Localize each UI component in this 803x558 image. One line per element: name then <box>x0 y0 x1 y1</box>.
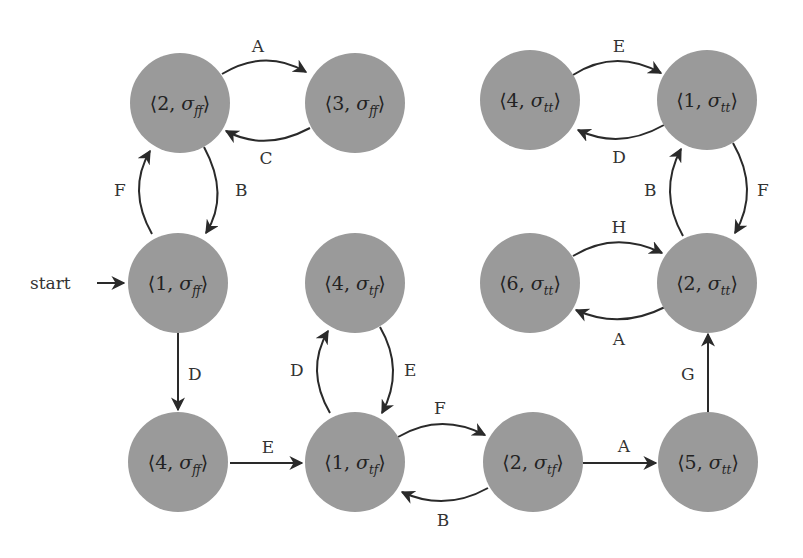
node-4-ff[interactable]: ⟨4, σff⟩ <box>128 412 228 512</box>
node-3-ff[interactable]: ⟨3, σff⟩ <box>305 53 405 153</box>
edge-label-a: A <box>251 36 265 56</box>
edge-label-f2: F <box>434 398 446 418</box>
edge-label-h: H <box>612 217 627 237</box>
node-2-tf[interactable]: ⟨2, σtf⟩ <box>483 412 583 512</box>
edge-4tt-1tt <box>573 61 661 75</box>
state-diagram: A C B F D E D E F B A G H <box>0 0 803 558</box>
edge-label-b: B <box>235 180 248 200</box>
edge-6tt-2tt <box>573 242 662 256</box>
node-2-ff[interactable]: ⟨2, σff⟩ <box>130 53 230 153</box>
edge-1tt-2tt <box>733 143 747 233</box>
node-4-tf[interactable]: ⟨4, σtf⟩ <box>305 233 405 333</box>
edge-2ff-1ff <box>204 147 218 233</box>
edge-label-f: F <box>114 180 126 200</box>
edge-label-d: D <box>188 364 202 384</box>
edge-label-f3: F <box>757 180 769 200</box>
node-1-ff[interactable]: ⟨1, σff⟩ <box>128 233 228 333</box>
edge-1tt-4tt <box>578 125 664 139</box>
node-2-tt[interactable]: ⟨2, σtt⟩ <box>657 233 757 333</box>
node-1-tf[interactable]: ⟨1, σtf⟩ <box>305 412 405 512</box>
nodes: ⟨2, σff⟩ ⟨3, σff⟩ ⟨1, σff⟩ ⟨4, σtf⟩ ⟨4, … <box>128 50 758 512</box>
edge-label-d2: D <box>290 360 304 380</box>
edge-label-e3: E <box>613 36 625 56</box>
node-6-tt[interactable]: ⟨6, σtt⟩ <box>480 233 580 333</box>
edge-2tt-6tt <box>576 307 665 319</box>
edge-3ff-2ff <box>226 128 310 141</box>
edge-label-a2: A <box>617 436 631 456</box>
edge-2tf-1tf <box>402 488 488 501</box>
edge-label-b2: B <box>437 510 450 530</box>
edge-label-e: E <box>262 437 274 457</box>
edge-2ff-3ff <box>222 60 306 74</box>
node-1-tt[interactable]: ⟨1, σtt⟩ <box>657 50 757 150</box>
edge-label-c: C <box>259 148 272 168</box>
edge-label-a3: A <box>612 329 626 349</box>
edge-label-g: G <box>681 364 695 384</box>
start-label: start <box>30 273 71 293</box>
edge-4tf-1tf <box>380 327 393 413</box>
edge-1tf-4tf <box>317 331 330 413</box>
edge-label-e2: E <box>404 360 416 380</box>
edge-1ff-2ff <box>139 151 152 234</box>
node-5-tt[interactable]: ⟨5, σtt⟩ <box>658 412 758 512</box>
edge-2tt-1tt <box>670 149 683 236</box>
edge-1tf-2tf <box>398 424 485 437</box>
node-4-tt[interactable]: ⟨4, σtt⟩ <box>480 50 580 150</box>
edge-label-d3: D <box>612 147 626 167</box>
edge-label-b3: B <box>644 180 657 200</box>
